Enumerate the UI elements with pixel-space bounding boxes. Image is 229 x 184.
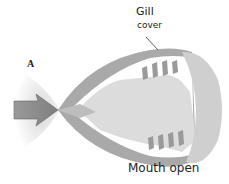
gill-cover-leader [146, 37, 158, 50]
fish-gill-diagram [0, 0, 229, 184]
panel-label: A [27, 58, 34, 69]
gill-label: Gill [136, 6, 154, 18]
cover-label: cover [137, 20, 162, 30]
caption: Mouth open [128, 161, 199, 175]
